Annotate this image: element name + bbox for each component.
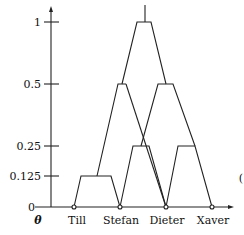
y-tick-label: 0.125 xyxy=(10,170,42,183)
y-tick-label: 0.5 xyxy=(24,78,42,91)
x-label-till: Till xyxy=(68,214,86,227)
dieter-branch xyxy=(166,146,212,207)
y-tick-label: 0 xyxy=(28,201,35,214)
y-tick-label: 0.25 xyxy=(17,140,42,153)
theta-label: θ xyxy=(34,214,42,227)
edge-paren: ( xyxy=(239,172,243,185)
stefan-branch xyxy=(120,146,166,207)
till-branch xyxy=(74,176,120,207)
y-tick-label: 1 xyxy=(34,16,41,29)
x-label-stefan: Stefan xyxy=(103,214,139,227)
x-label-dieter: Dieter xyxy=(149,214,185,227)
x-axis-arrow-icon xyxy=(228,205,234,209)
tree-diagram: 1 0.5 0.25 0.125 0 θ Till Stefan Dieter … xyxy=(0,0,244,235)
y-axis-arrow-icon xyxy=(49,6,53,12)
x-label-xaver: Xaver xyxy=(197,214,230,227)
root-branch xyxy=(122,22,166,84)
